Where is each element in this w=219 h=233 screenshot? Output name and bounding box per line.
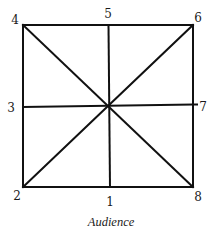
- horizontal-3-to-7: [23, 105, 193, 108]
- position-label-7: 7: [199, 101, 207, 113]
- position-label-6: 6: [194, 12, 202, 24]
- position-label-2: 2: [13, 190, 21, 202]
- position-label-8: 8: [194, 191, 202, 203]
- position-label-5: 5: [104, 8, 112, 20]
- position-label-3: 3: [7, 102, 15, 114]
- position-label-4: 4: [11, 14, 19, 26]
- position-label-1: 1: [106, 196, 114, 208]
- audience-caption: Audience: [88, 216, 135, 229]
